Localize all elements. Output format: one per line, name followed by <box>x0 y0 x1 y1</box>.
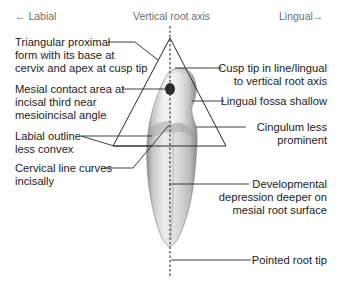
label-labial-outline: Labial outline less convex <box>15 130 81 156</box>
label-cervical-line: Cervical line curves incisally <box>15 162 112 188</box>
label-cingulum: Cingulum less prominent <box>257 121 327 147</box>
labial-direction-label: ← Labial <box>15 10 56 22</box>
label-developmental-depression: Developmental depression deeper on mesia… <box>219 178 327 217</box>
label-mesial-contact-area: Mesial contact area at incisal third nea… <box>15 83 124 122</box>
label-cusp-tip: Cusp tip in line/lingual to vertical roo… <box>218 62 327 88</box>
label-lingual-fossa: Lingual fossa shallow <box>221 95 327 108</box>
label-pointed-root-tip: Pointed root tip <box>252 254 327 267</box>
leader-labial-outline <box>81 136 152 146</box>
label-triangular-proximal-form: Triangular proximal form with its base a… <box>15 36 147 75</box>
lingual-direction-label: Lingual→ <box>279 10 323 22</box>
vertical-axis-label: Vertical root axis <box>133 10 210 22</box>
